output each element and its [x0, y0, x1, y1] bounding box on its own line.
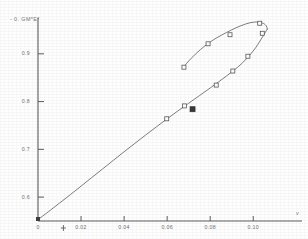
- figure-container: - 0. GM*E* v 0.60.70.80.900.020.040.060.…: [0, 0, 308, 239]
- y-tick-label-0: 0.6: [10, 193, 30, 199]
- open-square-marker-1: [182, 104, 186, 108]
- plot-canvas: [0, 0, 308, 239]
- curve-group: [38, 22, 267, 220]
- open-square-marker-5: [260, 31, 264, 35]
- x-tick-label-2: 0.04: [110, 224, 138, 230]
- y-tick-label-2: 0.8: [10, 98, 30, 104]
- open-square-marker-9: [182, 65, 186, 69]
- open-square-marker-3: [231, 69, 235, 73]
- open-square-marker-2: [214, 83, 218, 87]
- axes-group: [38, 18, 302, 221]
- x-tick-label-5: 0.10: [239, 224, 267, 230]
- x-tick-label-3: 0.06: [153, 224, 181, 230]
- x-axis-title: v: [296, 210, 299, 216]
- open-square-marker-4: [246, 54, 250, 58]
- filled-square-marker-0: [190, 107, 195, 112]
- y-axis-title: - 0. GM*E*: [10, 16, 40, 22]
- x-tick-label-1: 0.02: [67, 224, 95, 230]
- marker-group: [165, 21, 265, 121]
- x-tick-label-0: 0: [24, 224, 52, 230]
- x-tick-label-4: 0.08: [196, 224, 224, 230]
- open-square-marker-8: [206, 42, 210, 46]
- open-square-marker-7: [228, 33, 232, 37]
- origin-mark: [36, 217, 40, 221]
- y-tick-label-1: 0.7: [10, 146, 30, 152]
- y-tick-label-3: 0.9: [10, 50, 30, 56]
- open-square-marker-6: [258, 21, 262, 25]
- open-square-marker-0: [165, 117, 169, 121]
- data-curve-1: [183, 22, 267, 67]
- data-curve-0: [38, 29, 267, 220]
